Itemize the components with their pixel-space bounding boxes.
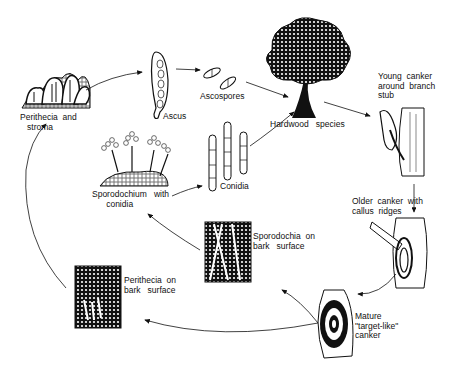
ascospores-drawing [202,66,237,91]
label-hardwood: Hardwood species [270,120,345,130]
hardwood-tree-drawing [266,18,350,118]
older-canker-drawing [370,218,427,288]
perithecia-stroma-drawing [22,73,90,108]
label-conidia: Conidia [220,182,249,192]
label-older-canker: Older canker with callus ridges [352,197,423,216]
label-sporodochium: Sporodochium with conidia [92,190,169,209]
perithecia-bark-drawing [75,266,121,328]
ascus-drawing [152,52,169,119]
label-perithecia-stroma: Perithecia and stroma [20,113,77,132]
label-sporodochia-bark: Sporodochia on bark surface [253,232,315,251]
mature-canker-drawing [318,290,353,358]
label-ascospores: Ascospores [200,92,244,102]
label-mature-canker: Mature "target-like" canker [355,312,398,341]
sporodochium-drawing [100,132,170,186]
label-young-canker: Young canker around branch stub [378,72,435,101]
label-perithecia-bark: Perithecia on bark surface [124,276,176,295]
label-ascus: Ascus [163,112,186,122]
young-canker-drawing [380,108,424,176]
sporodochia-bark-drawing [205,222,251,282]
